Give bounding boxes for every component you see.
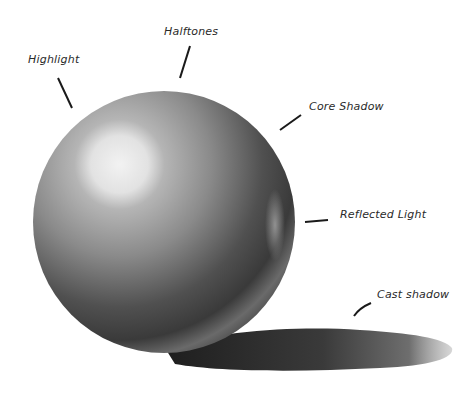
- leader-line-halftones: [180, 46, 190, 78]
- leader-line-reflected-light: [305, 220, 328, 222]
- leader-line-cast-shadow: [354, 303, 371, 316]
- reflected-light-area: [265, 189, 285, 261]
- label-highlight: Highlight: [28, 53, 79, 66]
- label-halftones: Halftones: [164, 25, 218, 38]
- sphere: [33, 91, 295, 353]
- sphere-lighting-diagram: Highlight Halftones Core Shadow Reflecte…: [0, 0, 474, 395]
- leader-line-highlight: [58, 78, 72, 108]
- label-cast-shadow: Cast shadow: [377, 288, 449, 301]
- leader-line-core-shadow: [280, 115, 301, 130]
- label-core-shadow: Core Shadow: [309, 100, 384, 113]
- label-reflected-light: Reflected Light: [340, 208, 426, 221]
